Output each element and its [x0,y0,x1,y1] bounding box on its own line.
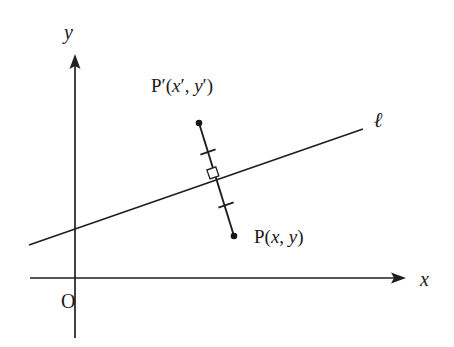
p-name: P [254,226,265,247]
x-axis-group [30,273,406,284]
geometry-figure: y x O ℓ P′(x′, y′) P(x, y) [0,0,454,347]
point-label-p-prime: P′(x′, y′) [151,76,213,95]
p-prime-close-paren: ) [207,75,213,96]
point-dot-p-prime [196,120,203,127]
p-prime-y: y [194,75,202,96]
line-l-group [29,129,363,245]
p-comma: , [279,226,289,247]
point-dot-p [231,233,238,240]
right-angle-square [207,167,219,179]
origin-label: O [61,291,75,311]
p-prime-x: x [172,75,180,96]
line-l [29,129,363,245]
segment-p-pprime-group [196,120,238,240]
point-label-p: P(x, y) [254,227,304,246]
x-axis-label: x [420,269,429,289]
y-axis-label: y [64,22,73,42]
line-l-label: ℓ [374,110,383,131]
congruence-tick-lower [218,202,233,207]
p-close-paren: ) [297,226,303,247]
p-prime-name: P [151,75,162,96]
segment-p-pprime [199,123,234,236]
p-prime-comma: , [185,75,195,96]
